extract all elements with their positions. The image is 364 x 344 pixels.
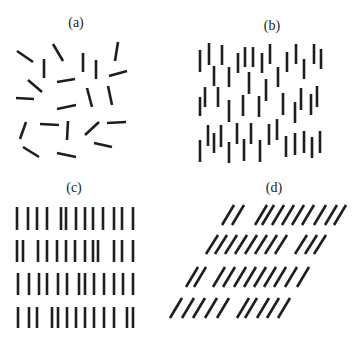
background: [0, 0, 364, 344]
line-segment: [107, 122, 126, 123]
line-segment: [67, 121, 68, 140]
panel-a-label: (a): [68, 15, 84, 31]
panel-c-label: (c): [66, 180, 82, 196]
panel-d-label: (d): [266, 180, 283, 196]
panel-b-label: (b): [264, 18, 281, 34]
line-segment: [16, 98, 34, 99]
line-segment: [40, 124, 59, 125]
texture-segmentation-figure: (a) (b) (c) (d): [0, 0, 364, 344]
